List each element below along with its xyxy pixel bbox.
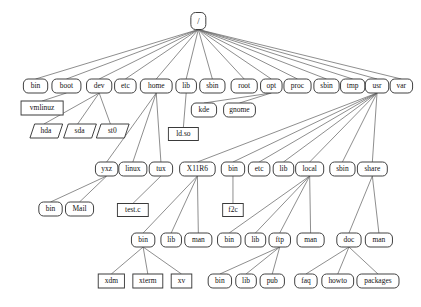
tree-edge [198,30,377,80]
tree-node-st0[interactable]: st0 [96,124,129,138]
tree-node-usr[interactable]: usr [365,79,388,93]
tree-edge [99,93,110,124]
tree-node-bin[interactable]: bin [23,79,47,93]
tree-node-xv[interactable]: xv [171,274,192,288]
tree-node-x11lib[interactable]: lib [161,233,182,247]
tree-edge [198,30,297,80]
tree-node-usretc[interactable]: etc [248,162,270,176]
tree-node-testc[interactable]: test.c [117,204,148,217]
node-label: man [372,235,385,244]
tree-node-hda[interactable]: hda [30,124,63,138]
tree-edge [36,30,199,80]
tree-node-shareman[interactable]: man [365,233,392,247]
tree-node-x11r6[interactable]: X11R6 [180,162,216,176]
node-label: faq [301,276,311,285]
tree-node-kde[interactable]: kde [191,103,216,117]
tree-node-doc[interactable]: doc [337,233,361,247]
tree-node-root[interactable]: / [191,13,206,30]
tree-node-share[interactable]: share [357,162,387,176]
tree-node-gnome[interactable]: gnome [224,103,256,117]
tree-node-rootdir[interactable]: root [231,79,257,93]
tree-node-ldso[interactable]: ld.so [168,128,198,141]
tree-node-usrsbin[interactable]: sbin [330,162,355,176]
tree-edge [338,247,349,274]
tree-node-ftp[interactable]: ftp [269,233,291,247]
tree-edge [133,93,156,162]
node-label: dev [94,81,105,90]
tree-node-mail[interactable]: Mail [65,202,93,216]
tree-node-var[interactable]: var [390,79,412,93]
node-label: etc [121,81,130,90]
tree-edge [272,247,279,274]
tree-edge [233,93,377,162]
node-label: Mail [72,204,86,213]
tree-node-pub[interactable]: pub [260,274,284,288]
tree-node-packages[interactable]: packages [357,274,399,288]
tree-edge [310,93,377,162]
tree-edge [143,247,148,274]
node-label: sda [75,126,86,135]
tree-node-homebin[interactable]: bin [39,202,62,216]
tree-node-locman[interactable]: man [297,233,324,247]
tree-edge [197,176,198,233]
tree-edge [66,30,198,80]
tree-node-linux[interactable]: linux [119,162,147,176]
node-label: bin [224,235,234,244]
node-label: xterm [139,276,156,285]
tree-edge [349,247,378,274]
tree-node-f2c[interactable]: f2c [223,204,244,217]
tree-node-tmp[interactable]: tmp [341,79,365,93]
tree-node-sda[interactable]: sda [64,124,97,138]
tree-node-ftpbin[interactable]: bin [208,274,231,288]
tree-node-dev[interactable]: dev [87,79,112,93]
tree-node-usrbin[interactable]: bin [221,162,244,176]
tree-node-proc[interactable]: proc [284,79,311,93]
tree-edge [372,93,377,162]
tree-node-ftplib[interactable]: lib [236,274,257,288]
tree-node-opt[interactable]: opt [261,79,283,93]
tree-node-faq[interactable]: faq [295,274,317,288]
node-label: f2c [228,205,238,214]
tree-edge [197,93,377,162]
node-label: xdm [105,276,118,285]
tree-edge [246,247,280,274]
node-label: kde [199,105,210,114]
tree-node-xdm[interactable]: xdm [98,274,124,288]
tree-node-sbin2[interactable]: sbin [200,79,225,93]
tree-node-lib[interactable]: lib [176,79,197,93]
node-label: X11R6 [187,164,208,173]
tree-node-loclib[interactable]: lib [245,233,266,247]
tree-node-tux[interactable]: tux [149,162,172,176]
tree-node-etc[interactable]: etc [115,79,137,93]
tree-edge [143,176,197,233]
node-label: howto [328,276,347,285]
node-label: man [192,235,205,244]
tree-node-local[interactable]: local [296,162,324,176]
node-label: bin [31,81,41,90]
tree-edge [310,176,311,233]
tree-edge [133,176,161,204]
tree-edge [42,93,66,101]
tree-edge [156,93,161,162]
node-label: lib [251,235,259,244]
tree-edge [78,93,100,124]
node-label: bin [228,164,238,173]
tree-node-xterm[interactable]: xterm [133,274,163,288]
tree-node-boot[interactable]: boot [52,79,81,93]
node-label: man [304,235,317,244]
tree-node-home[interactable]: home [140,79,172,93]
tree-node-usrlib[interactable]: lib [273,162,294,176]
tree-node-yxz[interactable]: yxz [95,162,117,176]
tree-edge [183,93,186,128]
tree-edge [283,93,377,162]
tree-node-locbin[interactable]: bin [218,233,241,247]
node-label: opt [267,81,277,90]
node-label: share [364,164,380,173]
tree-node-x11bin[interactable]: bin [131,233,154,247]
tree-node-x11man[interactable]: man [185,233,212,247]
node-label: lib [242,276,250,285]
tree-node-vmlinuz[interactable]: vmlinuz [21,101,63,115]
tree-node-sbin3[interactable]: sbin [314,79,339,93]
node-label: tux [156,164,166,173]
tree-node-howto[interactable]: howto [322,274,354,288]
